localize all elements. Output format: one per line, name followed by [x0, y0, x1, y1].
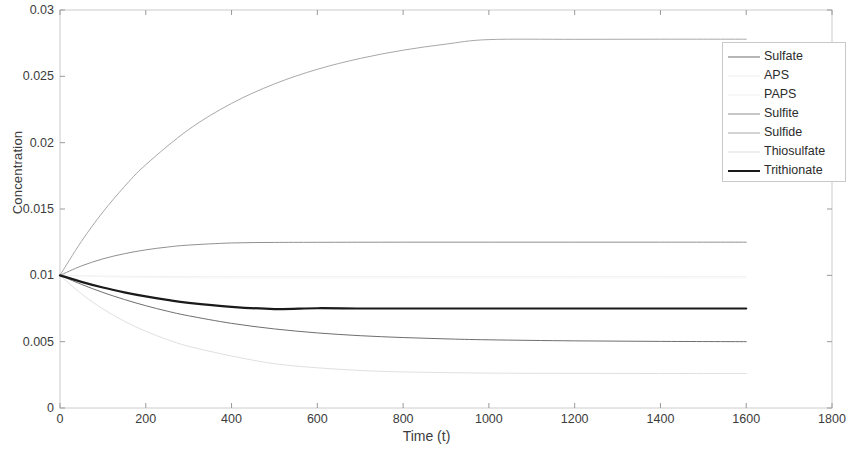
legend-line-swatch: [728, 52, 760, 62]
series-line-trithionate: [60, 275, 746, 309]
legend-label: Sulfite: [764, 107, 799, 120]
series-line-aps: [60, 275, 746, 276]
legend-label: APS: [764, 69, 789, 82]
legend-item[interactable]: Sulfate: [723, 47, 845, 66]
legend-label: Trithionate: [764, 164, 823, 177]
series-line-thiosulfate: [60, 275, 746, 373]
legend-item[interactable]: Sulfide: [723, 123, 845, 142]
axes-box: [60, 10, 832, 408]
legend-item[interactable]: Trithionate: [723, 161, 845, 180]
legend-line-swatch: [728, 128, 760, 138]
legend-line-swatch: [728, 71, 760, 81]
chart-legend: SulfateAPSPAPSSulfiteSulfideThiosulfateT…: [722, 42, 846, 182]
legend-item[interactable]: Thiosulfate: [723, 142, 845, 161]
legend-label: Sulfate: [764, 50, 803, 63]
legend-label: PAPS: [764, 88, 796, 101]
legend-label: Thiosulfate: [764, 145, 825, 158]
legend-item[interactable]: Sulfite: [723, 104, 845, 123]
legend-item[interactable]: PAPS: [723, 85, 845, 104]
series-line-sulfite: [60, 242, 746, 275]
legend-line-swatch: [728, 147, 760, 157]
legend-item[interactable]: APS: [723, 66, 845, 85]
legend-line-swatch: [728, 166, 760, 176]
chart-figure: Concentration 00.0050.010.0150.020.0250.…: [0, 0, 853, 450]
legend-label: Sulfide: [764, 126, 802, 139]
series-line-sulfide: [60, 39, 746, 275]
legend-line-swatch: [728, 90, 760, 100]
legend-line-swatch: [728, 109, 760, 119]
